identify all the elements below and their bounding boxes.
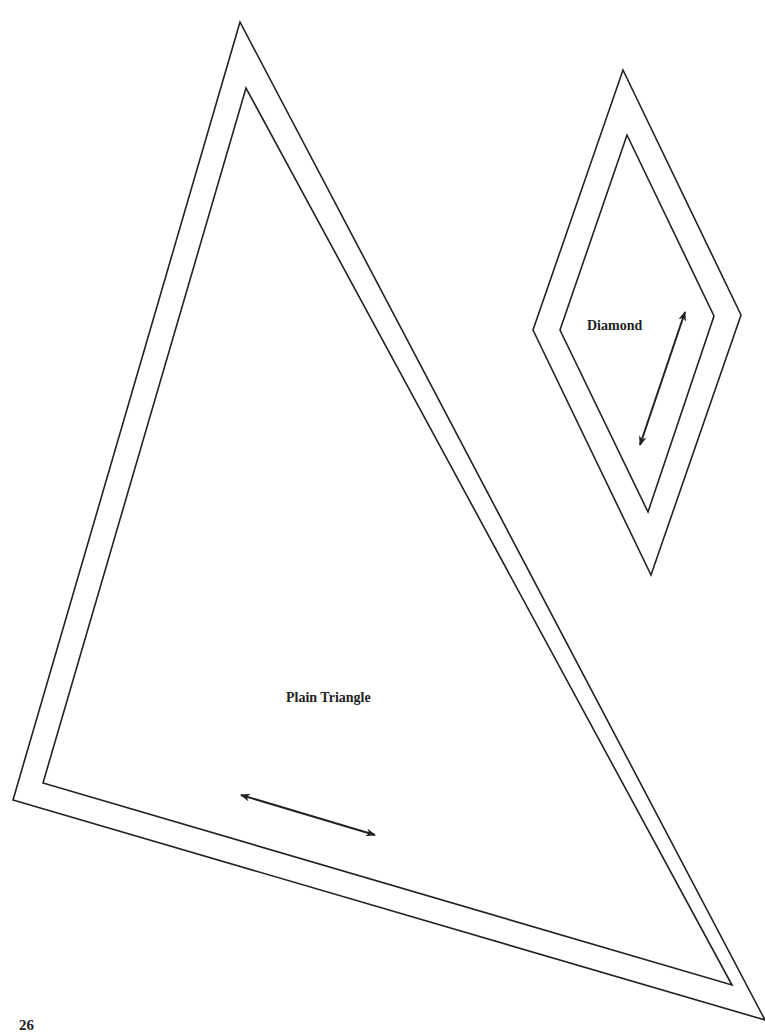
page-number: 26 <box>19 1017 34 1034</box>
triangle-label: Plain Triangle <box>286 690 371 706</box>
triangle-outer-cutting-line <box>13 22 765 1020</box>
diamond-grain-arrow-icon <box>640 312 685 445</box>
diamond-label: Diamond <box>587 318 642 334</box>
triangle-template <box>13 22 765 1020</box>
triangle-grain-arrow-icon <box>241 795 375 835</box>
triangle-inner-sewing-line <box>43 88 732 985</box>
